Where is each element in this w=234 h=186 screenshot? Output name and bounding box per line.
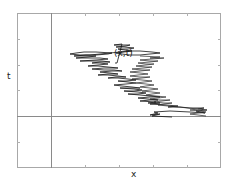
tick-marks [17,13,221,168]
plot-frame [18,14,221,168]
x-axis-label: x [131,170,136,179]
random-walk-diagram [0,0,234,186]
random-walk-path [70,44,207,117]
t-axis-label: t [7,72,11,81]
point-annotation: (x,t) [114,49,133,58]
